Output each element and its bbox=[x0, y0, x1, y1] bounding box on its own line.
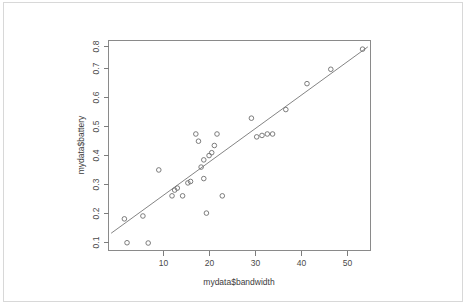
y-tick-label: 0.7 bbox=[91, 62, 101, 74]
data-point bbox=[270, 132, 275, 137]
x-tick-label: 10 bbox=[159, 258, 169, 268]
data-point bbox=[194, 132, 199, 137]
scatter-plot: 10 20 30 40 50 mydata$bandw bbox=[0, 0, 466, 305]
data-point bbox=[260, 133, 265, 138]
y-tick-label: 0.1 bbox=[91, 236, 101, 248]
y-axis: 0.1 0.2 0.3 0.4 0.5 bbox=[76, 40, 109, 248]
data-point bbox=[265, 132, 270, 137]
y-tick-group: 0.6 bbox=[91, 91, 108, 103]
data-points-layer bbox=[122, 47, 365, 245]
plot-svg: 10 20 30 40 50 mydata$bandw bbox=[0, 0, 466, 305]
y-axis-title: mydata$battery bbox=[76, 115, 86, 174]
x-tick-group: 40 bbox=[297, 251, 307, 269]
y-tick-group: 0.4 bbox=[91, 149, 108, 161]
data-point bbox=[170, 194, 175, 199]
y-tick-group: 0.1 bbox=[91, 236, 108, 248]
data-point bbox=[305, 81, 310, 86]
y-tick-label: 0.3 bbox=[91, 178, 101, 190]
y-tick-label: 0.5 bbox=[91, 120, 101, 132]
x-tick-group: 30 bbox=[251, 251, 261, 269]
data-point bbox=[284, 107, 289, 112]
data-point bbox=[196, 139, 201, 144]
y-tick-group: 0.7 bbox=[91, 62, 108, 74]
y-tick-group: 0.2 bbox=[91, 207, 108, 219]
x-axis-title: mydata$bandwidth bbox=[203, 277, 275, 287]
data-point bbox=[254, 135, 259, 140]
y-tick-group: 0.3 bbox=[91, 178, 108, 190]
data-point bbox=[122, 217, 127, 222]
data-point bbox=[204, 211, 209, 216]
y-tick-group: 0.5 bbox=[91, 120, 108, 132]
data-point bbox=[180, 194, 185, 199]
data-point bbox=[220, 194, 225, 199]
x-tick-label: 20 bbox=[205, 258, 215, 268]
x-tick-label: 30 bbox=[251, 258, 261, 268]
y-tick-label: 0.4 bbox=[91, 149, 101, 161]
y-tick-label: 0.8 bbox=[91, 40, 101, 52]
x-tick-group: 50 bbox=[343, 251, 353, 269]
x-tick-label: 40 bbox=[297, 258, 307, 268]
regression-line bbox=[111, 47, 368, 233]
data-point bbox=[141, 214, 146, 219]
plot-panel-box bbox=[109, 41, 371, 251]
data-point bbox=[215, 132, 220, 137]
y-tick-group: 0.8 bbox=[91, 40, 108, 52]
y-tick-label: 0.2 bbox=[91, 207, 101, 219]
data-point bbox=[201, 176, 206, 181]
data-point bbox=[207, 153, 212, 158]
x-tick-group: 20 bbox=[205, 251, 215, 269]
data-point bbox=[156, 168, 161, 173]
y-tick-label: 0.6 bbox=[91, 91, 101, 103]
data-point bbox=[201, 158, 206, 163]
x-tick-group: 10 bbox=[159, 251, 169, 269]
data-point bbox=[209, 150, 214, 155]
data-point bbox=[212, 143, 217, 148]
data-point bbox=[249, 116, 254, 121]
x-axis: 10 20 30 40 50 mydata$bandw bbox=[159, 251, 353, 288]
data-point bbox=[329, 67, 334, 72]
data-point bbox=[125, 240, 130, 245]
x-tick-label: 50 bbox=[343, 258, 353, 268]
data-point bbox=[146, 241, 151, 246]
chart-page: 10 20 30 40 50 mydata$bandw bbox=[0, 0, 466, 305]
